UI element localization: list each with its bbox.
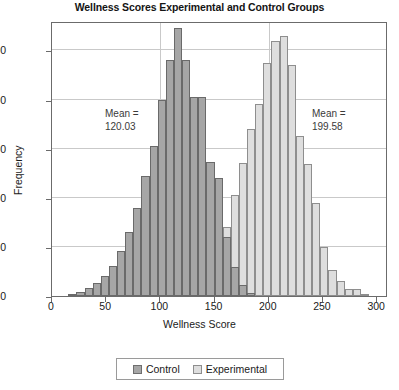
plot-area xyxy=(51,22,387,297)
bar-control-180 xyxy=(247,293,255,296)
experimental-mean-value: 199.58 xyxy=(312,121,346,134)
bar-experimental-172.5 xyxy=(239,163,247,296)
bar-experimental-180 xyxy=(247,129,255,296)
bar-control-97.5 xyxy=(158,100,166,296)
bar-control-22.5 xyxy=(76,292,84,296)
x-tick-mark-0 xyxy=(51,297,52,302)
bar-experimental-232.5 xyxy=(304,164,312,296)
bar-experimental-262.5 xyxy=(337,281,345,296)
bar-control-165 xyxy=(231,267,239,296)
bar-control-112.5 xyxy=(174,28,182,296)
legend-item-control: Control xyxy=(133,363,180,375)
bar-control-67.5 xyxy=(125,232,133,296)
bar-control-142.5 xyxy=(206,162,214,296)
x-tick-mark-200 xyxy=(268,297,269,302)
chart-legend: Control Experimental xyxy=(116,358,284,380)
legend-label-control: Control xyxy=(146,363,180,375)
y-tick-label-200: 200 xyxy=(0,192,6,204)
bar-experimental-277.5 xyxy=(353,289,361,296)
x-tick-mark-250 xyxy=(322,297,323,302)
bar-control-15 xyxy=(68,294,76,296)
bar-control-60 xyxy=(117,251,125,296)
bar-control-30 xyxy=(85,288,93,296)
legend-label-experimental: Experimental xyxy=(206,363,267,375)
control-mean-value: 120.03 xyxy=(105,121,139,134)
experimental-mean-label: Mean = xyxy=(312,108,346,121)
bar-experimental-225 xyxy=(296,136,304,296)
chart-container: Wellness Scores Experimental and Control… xyxy=(0,0,399,390)
bar-experimental-240 xyxy=(312,203,320,296)
bar-experimental-217.5 xyxy=(288,65,296,296)
control-mean-annotation: Mean = 120.03 xyxy=(105,108,139,133)
y-tick-label-400: 400 xyxy=(0,94,6,106)
bar-experimental-270 xyxy=(345,289,353,296)
bar-experimental-202.5 xyxy=(271,41,279,296)
bar-control-135 xyxy=(198,97,206,296)
x-axis-label: Wellness Score xyxy=(0,318,399,330)
bar-control-157.5 xyxy=(223,237,231,296)
control-mean-label: Mean = xyxy=(105,108,139,121)
bar-control-120 xyxy=(182,60,190,296)
bar-control-127.5 xyxy=(190,97,198,296)
y-tick-label-0: 0 xyxy=(0,290,6,302)
bar-control-172.5 xyxy=(239,285,247,296)
bar-experimental-247.5 xyxy=(320,247,328,296)
bar-control-45 xyxy=(101,276,109,296)
bar-experimental-187.5 xyxy=(255,104,263,296)
x-tick-mark-50 xyxy=(105,297,106,302)
bar-control-37.5 xyxy=(93,283,101,296)
histogram-bars xyxy=(52,23,386,296)
bar-control-82.5 xyxy=(141,176,149,296)
y-axis-label: Frequency xyxy=(12,145,24,195)
bar-experimental-285 xyxy=(361,294,369,296)
bar-control-150 xyxy=(215,178,223,296)
legend-swatch-experimental-icon xyxy=(193,365,202,374)
y-tick-label-300: 300 xyxy=(0,143,6,155)
x-tick-mark-300 xyxy=(376,297,377,302)
bar-control-90 xyxy=(150,146,158,296)
x-tick-mark-100 xyxy=(159,297,160,302)
chart-title: Wellness Scores Experimental and Control… xyxy=(0,1,399,13)
x-tick-mark-150 xyxy=(214,297,215,302)
bar-control-52.5 xyxy=(109,266,117,296)
bar-experimental-255 xyxy=(328,270,336,296)
legend-swatch-control-icon xyxy=(133,365,142,374)
bar-experimental-210 xyxy=(280,36,288,296)
legend-item-experimental: Experimental xyxy=(193,363,267,375)
bar-control-105 xyxy=(166,60,174,296)
y-tick-label-500: 500 xyxy=(0,44,6,56)
y-tick-label-100: 100 xyxy=(0,241,6,253)
bar-control-75 xyxy=(133,208,141,296)
experimental-mean-annotation: Mean = 199.58 xyxy=(312,108,346,133)
bar-experimental-195 xyxy=(263,63,271,296)
